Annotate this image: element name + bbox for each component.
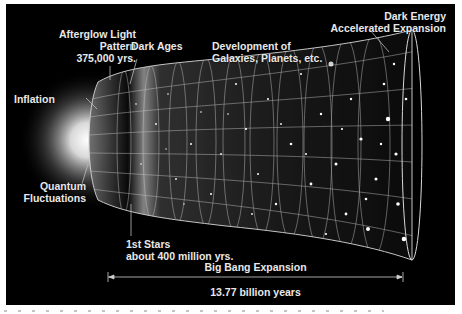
- label-afterglow-line1: Afterglow Light: [20, 28, 136, 40]
- label-first-stars-line1: 1st Stars: [126, 238, 233, 250]
- expansion-arrow: [108, 272, 403, 282]
- label-development: Development of Galaxies, Planets, etc.: [212, 40, 322, 64]
- label-inflation: Inflation: [14, 93, 55, 105]
- label-dark-energy: Dark Energy Accelerated Expansion: [306, 10, 446, 34]
- label-dark-energy-line1: Dark Energy: [306, 10, 446, 22]
- label-quantum-line1: Quantum: [10, 180, 86, 192]
- label-age: 13.77 billion years: [108, 286, 403, 298]
- label-dark-ages: Dark Ages: [131, 40, 183, 52]
- label-afterglow-line3: 375,000 yrs.: [20, 52, 136, 64]
- label-quantum-fluctuations: Quantum Fluctuations: [10, 180, 86, 204]
- label-afterglow-line2: Pattern: [20, 40, 136, 52]
- label-first-stars: 1st Stars about 400 million yrs.: [126, 238, 233, 262]
- label-dark-energy-line2: Accelerated Expansion: [306, 22, 446, 34]
- label-development-line2: Galaxies, Planets, etc.: [212, 52, 322, 64]
- clipped-caption: [4, 308, 384, 314]
- diagram-panel: Afterglow Light Pattern 375,000 yrs. Dar…: [6, 4, 455, 305]
- label-big-bang-expansion: Big Bang Expansion: [108, 261, 403, 273]
- label-quantum-line2: Fluctuations: [10, 192, 86, 204]
- label-afterglow: Afterglow Light Pattern 375,000 yrs.: [20, 28, 136, 64]
- label-development-line1: Development of: [212, 40, 322, 52]
